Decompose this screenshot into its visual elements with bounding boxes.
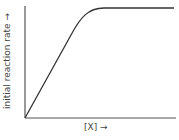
y-axis-label: initial reaction rate → — [2, 6, 14, 116]
chart-canvas — [0, 0, 179, 140]
x-axis-label: [X] → — [84, 122, 108, 132]
saturation-curve — [25, 8, 174, 118]
